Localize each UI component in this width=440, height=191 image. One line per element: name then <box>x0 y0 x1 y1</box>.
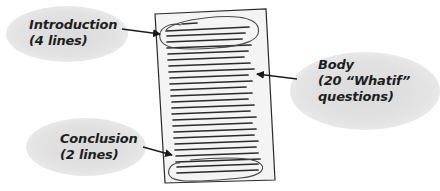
body-title: Body <box>318 57 410 73</box>
body-label: Body (20 “Whatif” questions) <box>318 57 410 105</box>
body-question-suffix: questions) <box>318 89 410 105</box>
introduction-label: Introduction (4 lines) <box>29 17 117 49</box>
introduction-line-count: (4 lines) <box>29 33 117 49</box>
conclusion-label: Conclusion (2 lines) <box>60 131 138 163</box>
body-question-count: (20 “Whatif” <box>318 73 410 89</box>
introduction-title: Introduction <box>29 17 117 33</box>
conclusion-line-count: (2 lines) <box>60 147 138 163</box>
introduction-arrow <box>122 29 160 34</box>
conclusion-title: Conclusion <box>60 131 138 147</box>
